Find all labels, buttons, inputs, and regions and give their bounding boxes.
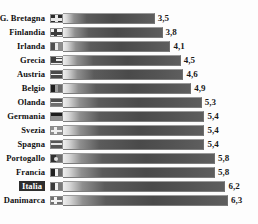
category-label: Germania: [0, 111, 47, 121]
bar-track: 5,3: [63, 97, 258, 108]
bar-row-label-cell: Portogallo: [0, 153, 63, 163]
bar-row-label-cell: Austria: [0, 69, 63, 79]
bar-track: 5,4: [63, 125, 258, 136]
flag-icon-sweden: [50, 126, 63, 135]
bar-row: Finlandia3,8: [0, 25, 258, 39]
bar: [63, 55, 181, 66]
flag-icon-germany: [50, 112, 63, 121]
category-label: Irlanda: [0, 41, 47, 51]
bar-row: Francia5,8: [0, 165, 258, 179]
bar: [63, 69, 183, 80]
bar: [63, 83, 191, 94]
category-label: Finlandia: [0, 27, 47, 37]
bar: [63, 181, 225, 192]
category-label: Spagna: [0, 139, 47, 149]
flag-icon-austria: [50, 70, 63, 79]
flag-icon-denmark: [50, 196, 63, 205]
bar-track: 3,5: [63, 13, 258, 24]
bar-track: 5,4: [63, 111, 258, 122]
bar-row: G. Bretagna3,5: [0, 11, 258, 25]
bar: [63, 139, 204, 150]
bar-row-label-cell: Olanda: [0, 97, 63, 107]
category-label: Olanda: [0, 97, 47, 107]
bar-value-label: 4,5: [184, 55, 195, 65]
bar-track: 6,3: [63, 195, 258, 206]
flag-icon-portugal: [50, 154, 63, 163]
bar-row-label-cell: Francia: [0, 167, 63, 177]
bar-row-label-cell: Italia: [0, 181, 63, 191]
bar-value-label: 6,2: [228, 181, 239, 191]
flag-icon-finland: [50, 28, 63, 37]
flag-icon-greece: [50, 56, 63, 65]
category-label: Austria: [0, 69, 47, 79]
bar-row-label-cell: Finlandia: [0, 27, 63, 37]
bar-row: Irlanda4,1: [0, 39, 258, 53]
category-label: Belgio: [0, 83, 47, 93]
bar-value-label: 5,3: [205, 97, 216, 107]
bar: [63, 195, 228, 206]
bar: [63, 41, 170, 52]
bar-track: 4,5: [63, 55, 258, 66]
bar-row-label-cell: G. Bretagna: [0, 13, 63, 23]
bar-value-label: 6,3: [231, 195, 242, 205]
category-label: Svezia: [0, 125, 47, 135]
category-label: Danimarca: [0, 195, 47, 205]
bar: [63, 111, 204, 122]
bar: [63, 27, 163, 38]
bar-row: Svezia5,4: [0, 123, 258, 137]
category-label: Grecia: [0, 55, 47, 65]
bar-value-label: 5,8: [218, 167, 229, 177]
bar-row: Danimarca6,3: [0, 193, 258, 207]
bar-row: Portogallo5,8: [0, 151, 258, 165]
bar-track: 5,8: [63, 167, 258, 178]
bar-track: 4,9: [63, 83, 258, 94]
category-label: G. Bretagna: [0, 13, 47, 23]
bar-chart: G. Bretagna3,5Finlandia3,8Irlanda4,1Grec…: [0, 0, 258, 224]
bar: [63, 167, 215, 178]
bar-row-label-cell: Danimarca: [0, 195, 63, 205]
bar-value-label: 4,9: [194, 83, 205, 93]
category-label: Portogallo: [0, 153, 47, 163]
bar-row-label-cell: Irlanda: [0, 41, 63, 51]
bar-row-label-cell: Germania: [0, 111, 63, 121]
bar-row: Austria4,6: [0, 67, 258, 81]
bar-track: 4,6: [63, 69, 258, 80]
bar-row-label-cell: Grecia: [0, 55, 63, 65]
bar-track: 5,4: [63, 139, 258, 150]
bar-track: 4,1: [63, 41, 258, 52]
flag-icon-france: [50, 168, 63, 177]
bar-value-label: 3,8: [166, 27, 177, 37]
bar: [63, 153, 215, 164]
bar-row: Grecia4,5: [0, 53, 258, 67]
bar-value-label: 5,4: [207, 139, 218, 149]
flag-icon-netherlands: [50, 98, 63, 107]
bar-row-label-cell: Spagna: [0, 139, 63, 149]
bar-row-label-cell: Svezia: [0, 125, 63, 135]
bar-value-label: 4,1: [173, 41, 184, 51]
flag-icon-belgium: [50, 84, 63, 93]
bar: [63, 125, 204, 136]
bar-value-label: 4,6: [186, 69, 197, 79]
flag-icon-united-kingdom: [50, 14, 63, 23]
bar-track: 5,8: [63, 153, 258, 164]
bar-value-label: 5,4: [207, 111, 218, 121]
flag-icon-spain: [50, 140, 63, 149]
category-label: Francia: [0, 167, 47, 177]
bar-row: Spagna5,4: [0, 137, 258, 151]
category-label-highlighted: Italia: [19, 181, 45, 191]
bar-row-label-cell: Belgio: [0, 83, 63, 93]
bar-value-label: 5,4: [207, 125, 218, 135]
bar: [63, 13, 155, 24]
bar-row: Italia6,2: [0, 179, 258, 193]
bar-value-label: 5,8: [218, 153, 229, 163]
bar-row: Germania5,4: [0, 109, 258, 123]
bar-row: Belgio4,9: [0, 81, 258, 95]
bar: [63, 97, 202, 108]
flag-icon-ireland: [50, 42, 63, 51]
flag-icon-italy: [50, 182, 63, 191]
bar-track: 6,2: [63, 181, 258, 192]
bar-row: Olanda5,3: [0, 95, 258, 109]
bar-value-label: 3,5: [158, 13, 169, 23]
bar-track: 3,8: [63, 27, 258, 38]
